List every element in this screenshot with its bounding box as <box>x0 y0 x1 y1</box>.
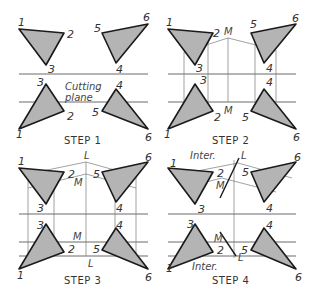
panel-step-3: 1 2 3 5 6 4 3 2 1 4 5 6 L M M L STEP 3 <box>17 150 152 286</box>
step-title: STEP 4 <box>212 275 249 286</box>
triangle-456-front <box>102 228 148 269</box>
step-title: STEP 3 <box>64 275 101 286</box>
triangle-456-top <box>251 24 296 63</box>
vertex-label: 4 <box>266 62 273 75</box>
triangle-123-top <box>19 168 64 204</box>
vertex-label: 6 <box>295 271 302 284</box>
vertex-label: 1 <box>18 155 25 168</box>
vertex-label: 6 <box>145 131 152 144</box>
vertex-label: 4 <box>116 63 123 76</box>
cutting-plane-label: Cutting <box>65 81 102 92</box>
intersection-label: Inter. <box>190 150 216 161</box>
vertex-label: 6 <box>143 11 150 24</box>
vertex-label: 1 <box>164 128 171 141</box>
triangle-123-top <box>168 168 213 204</box>
vertex-label: 5 <box>93 243 100 256</box>
triangle-456-front <box>102 89 148 129</box>
triangle-456-front <box>251 89 296 129</box>
vertex-label: 2 <box>213 27 220 40</box>
panel-step-4: 1 2 3 5 6 4 3 2 1 4 5 6 Inter. L M M L I… <box>166 150 302 286</box>
triangle-123-top <box>168 29 213 65</box>
vertex-label: 1 <box>166 262 173 275</box>
point-label-l: L <box>84 150 90 161</box>
vertex-label: 4 <box>116 219 123 232</box>
vertex-label: 1 <box>166 16 173 29</box>
vertex-label: 2 <box>67 110 74 123</box>
vertex-label: 3 <box>48 63 55 76</box>
point-label-m: M <box>216 180 225 191</box>
point-label-m: M <box>74 177 83 188</box>
vertex-label: 3 <box>37 219 44 232</box>
point-label-m: M <box>224 26 233 37</box>
vertex-label: 2 <box>217 167 224 180</box>
vertex-label: 3 <box>37 76 44 89</box>
vertex-label: 6 <box>292 12 299 25</box>
triangle-123-front <box>168 84 213 129</box>
vertex-label: 2 <box>217 244 224 257</box>
vertex-label: 4 <box>266 202 273 215</box>
vertex-label: 5 <box>242 166 249 179</box>
triangle-456-top <box>102 162 148 202</box>
vertex-label: 3 <box>200 74 207 87</box>
vertex-label: 6 <box>145 151 152 164</box>
vertex-label: 2 <box>214 111 221 124</box>
point-label-l: L <box>238 252 244 263</box>
vertex-label: 2 <box>67 28 74 41</box>
vertex-label: 2 <box>68 243 75 256</box>
vertex-label: 5 <box>93 168 100 181</box>
point-label-m: M <box>214 233 223 244</box>
triangle-456-front <box>251 228 296 269</box>
vertex-label: 6 <box>145 271 152 284</box>
triangle-123-top <box>19 29 64 65</box>
vertex-label: 4 <box>116 79 123 92</box>
triangle-456-top <box>102 24 148 63</box>
vertex-label: 3 <box>37 202 44 215</box>
triangle-456-top <box>251 162 296 202</box>
point-label-m: M <box>224 105 233 116</box>
point-label-m: M <box>73 231 82 242</box>
vertex-label: 5 <box>92 106 99 119</box>
triangle-123-front <box>19 84 64 129</box>
vertex-label: 5 <box>242 111 249 124</box>
step-title: STEP 2 <box>212 135 249 146</box>
vertex-label: 3 <box>187 218 194 231</box>
vertex-label: 4 <box>266 76 273 89</box>
vertex-label: 1 <box>170 157 177 170</box>
point-label-l: L <box>88 258 94 269</box>
panel-step-2: 1 2 3 5 6 4 3 2 1 4 5 6 M M STEP 2 <box>164 12 300 146</box>
intersection-construction-diagram: 1 2 3 5 6 4 3 2 1 4 5 6 Cutting plane ST… <box>0 0 316 299</box>
vertex-label: 1 <box>18 16 25 29</box>
panel-step-1: 1 2 3 5 6 4 3 2 1 4 5 6 Cutting plane ST… <box>16 11 152 146</box>
point-label-l: L <box>241 150 247 161</box>
vertex-label: 1 <box>17 269 24 282</box>
vertex-label: 3 <box>198 203 205 216</box>
step-title: STEP 1 <box>64 135 101 146</box>
vertex-label: 6 <box>293 131 300 144</box>
vertex-label: 1 <box>16 128 23 141</box>
vertex-label: 4 <box>116 202 123 215</box>
vertex-label: 4 <box>266 219 273 232</box>
vertex-label: 5 <box>250 18 257 31</box>
vertex-label: 6 <box>294 151 301 164</box>
cutting-plane-label: plane <box>64 92 93 103</box>
vertex-label: 5 <box>94 22 101 35</box>
intersection-label: Inter. <box>192 261 218 272</box>
